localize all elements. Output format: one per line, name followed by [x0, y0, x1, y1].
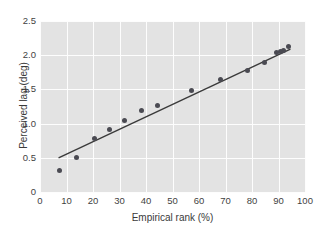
x-tick-label: 0 — [25, 196, 55, 206]
x-tick-label: 100 — [290, 196, 320, 206]
x-tick-label: 70 — [211, 196, 241, 206]
y-axis-label: Perceived lag (deg) — [18, 21, 29, 191]
x-tick-label: 90 — [264, 196, 294, 206]
x-tick-label: 60 — [184, 196, 214, 206]
data-point — [122, 118, 127, 123]
data-point — [92, 136, 97, 141]
x-tick-label: 40 — [131, 196, 161, 206]
x-tick-label: 10 — [52, 196, 82, 206]
x-tick-label: 80 — [237, 196, 267, 206]
x-axis-label: Empirical rank (%) — [40, 212, 305, 223]
regression-line — [40, 21, 305, 192]
plot-panel — [40, 21, 305, 192]
data-point — [245, 68, 250, 73]
gridline-horizontal — [40, 192, 305, 193]
x-tick-label: 20 — [78, 196, 108, 206]
data-point — [218, 77, 223, 82]
x-tick-label: 30 — [105, 196, 135, 206]
scatter-plot-figure: 00.51.01.52.02.5 0102030405060708090100 … — [0, 0, 331, 244]
gridline-vertical — [305, 21, 306, 192]
x-tick-label: 50 — [158, 196, 188, 206]
data-point — [74, 155, 79, 160]
data-point — [281, 48, 286, 53]
